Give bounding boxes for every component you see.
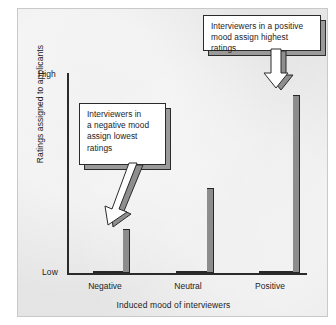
y-axis-line <box>67 73 69 275</box>
x-axis-category-negative: Negative <box>75 281 135 291</box>
callout-negative-box: Interviewers in a negative mood assign l… <box>79 103 166 165</box>
bar-positive[interactable] <box>259 89 293 273</box>
bar-negative-side <box>123 229 130 273</box>
callout-negative-arrow <box>93 161 145 231</box>
callout-negative[interactable]: Interviewers in a negative mood assign l… <box>79 103 166 165</box>
callout-negative-text: Interviewers in a negative mood assign l… <box>87 109 158 154</box>
y-axis-tick-low: Low <box>42 267 58 277</box>
chart-figure-panel: High Low Ratings assigned to applicants … <box>17 8 328 317</box>
x-axis-category-positive: Positive <box>240 281 300 291</box>
bar-neutral-side <box>207 188 214 273</box>
plot-area: High Low Ratings assigned to applicants … <box>18 9 327 316</box>
callout-positive[interactable]: Interviewers in a positive mood assign h… <box>203 15 321 51</box>
x-axis-category-neutral: Neutral <box>158 281 218 291</box>
x-axis-title: Induced mood of interviewers <box>18 300 329 310</box>
bar-neutral-face <box>176 271 207 273</box>
callout-positive-arrow <box>257 47 297 93</box>
bar-positive-face <box>259 271 293 273</box>
bar-positive-side <box>293 95 300 273</box>
bar-neutral[interactable] <box>176 182 207 273</box>
x-axis-line <box>67 273 307 275</box>
bar-negative-face <box>93 271 123 273</box>
y-axis-title: Ratings assigned to applicants <box>35 24 45 184</box>
callout-positive-box: Interviewers in a positive mood assign h… <box>203 15 321 51</box>
